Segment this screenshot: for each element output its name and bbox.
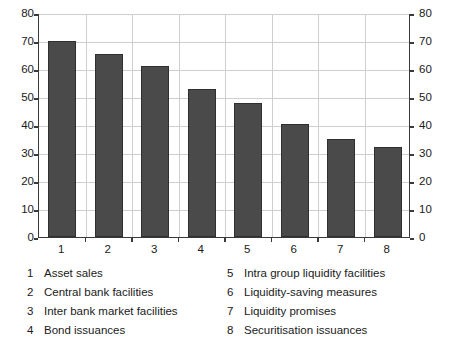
x-axis-tick: [178, 238, 180, 242]
x-axis-tick-label: 1: [46, 243, 76, 255]
bar: [374, 147, 402, 237]
legend-item: 1Asset sales: [27, 264, 178, 283]
bar: [188, 89, 216, 237]
figure: 0010102020303040405050606070708080123456…: [0, 0, 453, 344]
y-axis-right-tick-label: 50: [419, 92, 432, 104]
y-axis-right-tick: [410, 42, 414, 44]
y-axis-left-tick-label: 80: [21, 8, 34, 20]
y-axis-left-tick-label: 70: [21, 36, 34, 48]
y-axis-left-tick: [34, 126, 38, 128]
x-axis-tick-label: 5: [232, 243, 262, 255]
y-axis-right-tick-label: 70: [419, 36, 432, 48]
y-axis-right-tick: [410, 154, 414, 156]
legend-item: 5Intra group liquidity facilities: [227, 264, 385, 283]
y-axis-left-tick: [34, 98, 38, 100]
legend-item-number: 3: [27, 302, 44, 321]
gridline-vertical: [318, 14, 319, 237]
legend-item-number: 8: [227, 321, 244, 340]
x-axis-tick-label: 3: [139, 243, 169, 255]
y-axis-left-tick: [34, 14, 38, 16]
x-axis-tick: [271, 238, 273, 242]
legend-item-number: 5: [227, 264, 244, 283]
legend-item-label: Liquidity-saving measures: [244, 283, 377, 302]
y-axis-right-tick-label: 80: [419, 8, 432, 20]
y-axis-right-tick-label: 0: [419, 232, 425, 244]
y-axis-right-tick-label: 60: [419, 64, 432, 76]
y-axis-left-tick: [34, 182, 38, 184]
gridline-vertical: [179, 14, 180, 237]
x-axis-tick-label: 2: [93, 243, 123, 255]
bar: [281, 124, 309, 237]
y-axis-left-tick-label: 50: [21, 92, 34, 104]
legend: 1Asset sales2Central bank facilities3Int…: [0, 264, 453, 344]
legend-item: 2Central bank facilities: [27, 283, 178, 302]
gridline-horizontal: [39, 14, 409, 15]
legend-item: 8Securitisation issuances: [227, 321, 385, 340]
gridline-vertical: [272, 14, 273, 237]
bar: [141, 66, 169, 237]
y-axis-right-tick: [410, 210, 414, 212]
gridline-vertical: [86, 14, 87, 237]
y-axis-left-tick: [34, 70, 38, 72]
legend-item-label: Asset sales: [44, 264, 103, 283]
y-axis-left-tick-label: 60: [21, 64, 34, 76]
legend-item-number: 4: [27, 321, 44, 340]
legend-item-label: Intra group liquidity facilities: [244, 264, 385, 283]
y-axis-right-tick-label: 20: [419, 176, 432, 188]
legend-column-left: 1Asset sales2Central bank facilities3Int…: [27, 264, 178, 340]
legend-item: 7Liquidity promises: [227, 302, 385, 321]
y-axis-left-tick: [34, 210, 38, 212]
bar: [327, 139, 355, 237]
y-axis-left-tick-label: 20: [21, 176, 34, 188]
y-axis-right-tick-label: 40: [419, 120, 432, 132]
x-axis-tick: [131, 238, 133, 242]
x-axis-tick: [85, 238, 87, 242]
bar: [95, 54, 123, 237]
y-axis-right-tick-label: 30: [419, 148, 432, 160]
legend-item: 4Bond issuances: [27, 321, 178, 340]
y-axis-left-tick: [34, 238, 38, 240]
y-axis-left-tick: [34, 42, 38, 44]
x-axis-tick: [224, 238, 226, 242]
y-axis-left-tick-label: 30: [21, 148, 34, 160]
bar-chart: 0010102020303040405050606070708080123456…: [0, 0, 453, 258]
y-axis-right-tick: [410, 238, 414, 240]
x-axis-tick-label: 4: [186, 243, 216, 255]
x-axis-tick: [317, 238, 319, 242]
x-axis-tick-label: 6: [279, 243, 309, 255]
legend-column-right: 5Intra group liquidity facilities6Liquid…: [227, 264, 385, 340]
y-axis-left-tick-label: 10: [21, 204, 34, 216]
legend-item: 6Liquidity-saving measures: [227, 283, 385, 302]
x-axis-tick-label: 7: [325, 243, 355, 255]
legend-item-number: 6: [227, 283, 244, 302]
gridline-vertical: [365, 14, 366, 237]
bar: [48, 41, 76, 237]
legend-item-label: Inter bank market facilities: [44, 302, 178, 321]
gridline-vertical: [225, 14, 226, 237]
gridline-vertical: [132, 14, 133, 237]
bar: [234, 103, 262, 237]
gridline-horizontal: [39, 42, 409, 43]
x-axis-tick-label: 8: [372, 243, 402, 255]
legend-item-number: 1: [27, 264, 44, 283]
legend-item-label: Securitisation issuances: [244, 321, 367, 340]
y-axis-right-tick: [410, 70, 414, 72]
y-axis-left-tick: [34, 154, 38, 156]
legend-item-label: Bond issuances: [44, 321, 125, 340]
x-axis-tick: [364, 238, 366, 242]
y-axis-right-tick: [410, 126, 414, 128]
legend-item-label: Central bank facilities: [44, 283, 153, 302]
legend-item-number: 2: [27, 283, 44, 302]
y-axis-right-tick-label: 10: [419, 204, 432, 216]
legend-item-label: Liquidity promises: [244, 302, 336, 321]
y-axis-right-tick: [410, 182, 414, 184]
legend-item-number: 7: [227, 302, 244, 321]
y-axis-right-tick: [410, 98, 414, 100]
plot-area: [38, 14, 410, 238]
legend-item: 3Inter bank market facilities: [27, 302, 178, 321]
y-axis-right-tick: [410, 14, 414, 16]
y-axis-left-tick-label: 40: [21, 120, 34, 132]
